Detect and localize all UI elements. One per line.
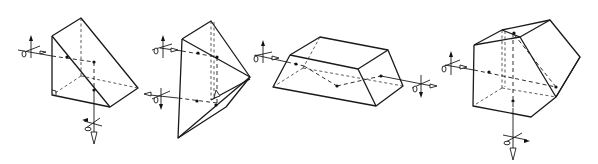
output-frame-icon [82, 118, 102, 144]
output-frame-icon [412, 75, 437, 98]
output-frame-icon [503, 133, 530, 160]
pentaprism [442, 20, 580, 160]
roof-prism [144, 21, 250, 138]
output-frame-icon [144, 88, 170, 110]
input-frame-icon [442, 51, 467, 75]
input-frame-icon [152, 35, 178, 58]
prism-diagram [0, 0, 598, 164]
dove-prism [254, 37, 437, 106]
right-angle-prism [18, 18, 138, 144]
